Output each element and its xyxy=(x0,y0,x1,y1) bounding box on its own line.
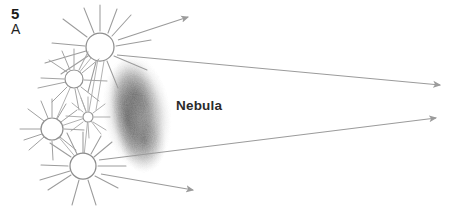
panel-letter: A xyxy=(11,22,20,36)
arrow-right-upper xyxy=(117,55,440,85)
panel-label: 5 A xyxy=(11,6,20,37)
star-4 xyxy=(20,99,84,160)
star-1-disc xyxy=(86,33,114,61)
star-3-disc xyxy=(83,112,93,122)
arrow-down xyxy=(101,174,193,190)
figure-canvas xyxy=(0,0,463,211)
star-4-disc xyxy=(41,118,63,140)
star-2-disc xyxy=(65,70,83,88)
figure-panel: 5 A Nebula xyxy=(0,0,463,211)
nebula-cloud xyxy=(95,50,179,176)
panel-number: 5 xyxy=(11,6,20,21)
nebula-label: Nebula xyxy=(176,98,222,113)
star-5-disc xyxy=(70,153,96,179)
arrow-up xyxy=(118,17,188,40)
